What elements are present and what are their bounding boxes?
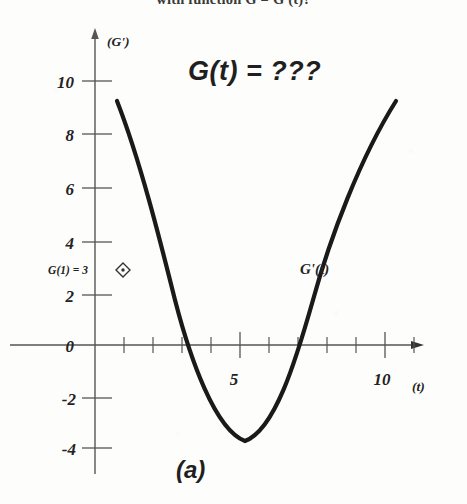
panel-label: (a) — [176, 456, 205, 483]
plot-area: 10 8 6 4 2 0 -2 -4 5 10 (G') (t) G(1) = … — [0, 0, 467, 504]
point-label-g1: G(1) = 3 — [48, 264, 88, 277]
y-tick-label-4: 4 — [65, 234, 75, 253]
y-tick-label-0: 0 — [66, 337, 75, 356]
question-text: G(t) = ??? — [188, 56, 321, 86]
diamond-marker-center-icon — [121, 268, 124, 271]
y-axis-arrow-icon — [91, 28, 99, 39]
x-tick-label-10: 10 — [374, 370, 392, 389]
y-axis-label: (G') — [107, 34, 130, 49]
curve-label: G'(t) — [300, 261, 329, 278]
y-tick-label-6: 6 — [66, 180, 75, 199]
y-tick-label-8: 8 — [66, 126, 75, 145]
x-axis-label: (t) — [412, 379, 425, 394]
point-marker-g1 — [116, 263, 130, 277]
curve-g-prime — [117, 101, 396, 441]
figure-canvas: with function G = G (t)? — [0, 0, 467, 504]
y-tick-label-minus-2: -2 — [62, 390, 77, 409]
y-tick-label-minus-4: -4 — [62, 440, 76, 459]
y-axis — [91, 28, 99, 474]
x-tick-label-5: 5 — [230, 370, 239, 389]
y-tick-label-2: 2 — [65, 287, 75, 306]
y-tick-label-10: 10 — [57, 73, 75, 92]
x-axis-arrow-icon — [411, 341, 424, 349]
